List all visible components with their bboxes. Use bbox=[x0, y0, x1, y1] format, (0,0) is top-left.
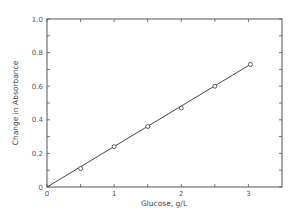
chart: 0123 00.20.40.60.81.0 Glucose, g/L Chang… bbox=[0, 0, 295, 221]
y-tick-label: 0.6 bbox=[32, 83, 44, 91]
y-axis-label: Change in Absorbance bbox=[11, 60, 20, 145]
data-point bbox=[248, 62, 252, 66]
x-tick-label: 0 bbox=[45, 190, 49, 198]
x-tick-label: 2 bbox=[179, 190, 183, 198]
data-point bbox=[146, 125, 150, 129]
x-tick-label: 1 bbox=[112, 190, 116, 198]
data-point bbox=[112, 145, 116, 149]
y-tick-label: 0 bbox=[39, 184, 43, 192]
y-tick-label: 1.0 bbox=[32, 16, 43, 24]
plot-frame bbox=[47, 19, 282, 187]
y-tick-label: 0.8 bbox=[32, 49, 43, 57]
y-axis-ticks: 00.20.40.60.81.0 bbox=[32, 16, 282, 192]
plot-border bbox=[47, 19, 282, 187]
y-tick-label: 0.4 bbox=[32, 116, 44, 124]
data-point bbox=[179, 106, 183, 110]
data-point bbox=[213, 84, 217, 88]
x-tick-label: 3 bbox=[246, 190, 250, 198]
x-axis-ticks: 0123 bbox=[45, 19, 251, 198]
data-series bbox=[47, 62, 252, 187]
y-tick-label: 0.2 bbox=[32, 150, 43, 158]
data-point bbox=[79, 167, 83, 171]
x-axis-label: Glucose, g/L bbox=[141, 199, 188, 208]
